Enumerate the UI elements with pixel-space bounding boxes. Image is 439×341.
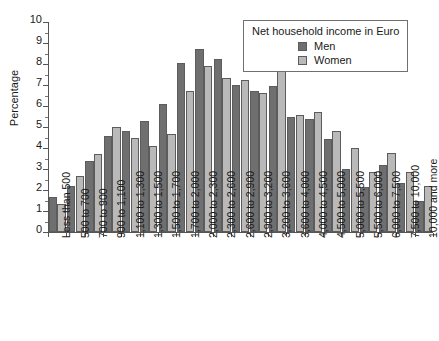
y-tick-label: 10 bbox=[20, 14, 42, 25]
x-axis-label: 1,500 to 1,700 bbox=[171, 171, 182, 238]
x-axis-label: 3,600 to 4,000 bbox=[300, 171, 311, 238]
x-axis-label: 7,500 to 10,000 bbox=[410, 165, 421, 238]
y-tick-label: 1 bbox=[20, 203, 42, 214]
x-axis-label: 700 to 900 bbox=[98, 188, 109, 238]
x-axis-label: 900 to 1,100 bbox=[116, 180, 127, 238]
x-axis-label: 1,700 to 2,000 bbox=[190, 171, 201, 238]
x-axis-label: 2,000 to 2,300 bbox=[208, 171, 219, 238]
bar-men bbox=[49, 197, 58, 232]
legend-label-men: Men bbox=[314, 40, 335, 52]
x-axis-label: Less than 500 bbox=[61, 172, 72, 238]
x-axis-labels: Less than 500500 to 700700 to 900900 to … bbox=[48, 238, 433, 338]
x-axis-label: 1,100 to 1,300 bbox=[135, 171, 146, 238]
x-tick-mark bbox=[48, 233, 49, 237]
x-axis-label: 4,000 to 4,500 bbox=[318, 171, 329, 238]
x-axis-label: 5,000 to 5,500 bbox=[355, 171, 366, 238]
legend-entry-women: Women bbox=[252, 54, 399, 66]
x-axis-label: 6,000 to 7,500 bbox=[391, 171, 402, 238]
y-axis-title: Percentage bbox=[8, 53, 20, 143]
legend-label-women: Women bbox=[314, 54, 352, 66]
x-axis-label: 500 to 700 bbox=[80, 188, 91, 238]
men-swatch-icon bbox=[298, 42, 307, 51]
legend-entry-men: Men bbox=[252, 40, 399, 52]
x-axis-label: 2,900 to 3,200 bbox=[263, 171, 274, 238]
y-tick-label: 6 bbox=[20, 98, 42, 109]
x-axis-label: 2,300 to 2,600 bbox=[226, 171, 237, 238]
y-tick-label: 0 bbox=[20, 224, 42, 235]
y-tick-label: 2 bbox=[20, 182, 42, 193]
y-tick-label: 8 bbox=[20, 56, 42, 67]
y-tick-label: 5 bbox=[20, 119, 42, 130]
x-axis-label: 3,200 to 3,600 bbox=[281, 171, 292, 238]
x-axis-label: 4,500 to 5,000 bbox=[336, 171, 347, 238]
x-axis-label: 2,600 to 2,900 bbox=[245, 171, 256, 238]
x-axis-label: 5,500 to 6,000 bbox=[373, 171, 384, 238]
chart-legend: Net household income in Euro Men Women bbox=[243, 20, 408, 72]
y-tick-label: 3 bbox=[20, 161, 42, 172]
legend-title: Net household income in Euro bbox=[252, 25, 399, 38]
x-axis-label: 10,000 and more bbox=[428, 159, 439, 238]
y-tick-label: 9 bbox=[20, 35, 42, 46]
women-swatch-icon bbox=[298, 56, 307, 65]
y-tick-label: 7 bbox=[20, 77, 42, 88]
y-tick-label: 4 bbox=[20, 140, 42, 151]
x-axis-label: 1,300 to 1,500 bbox=[153, 171, 164, 238]
